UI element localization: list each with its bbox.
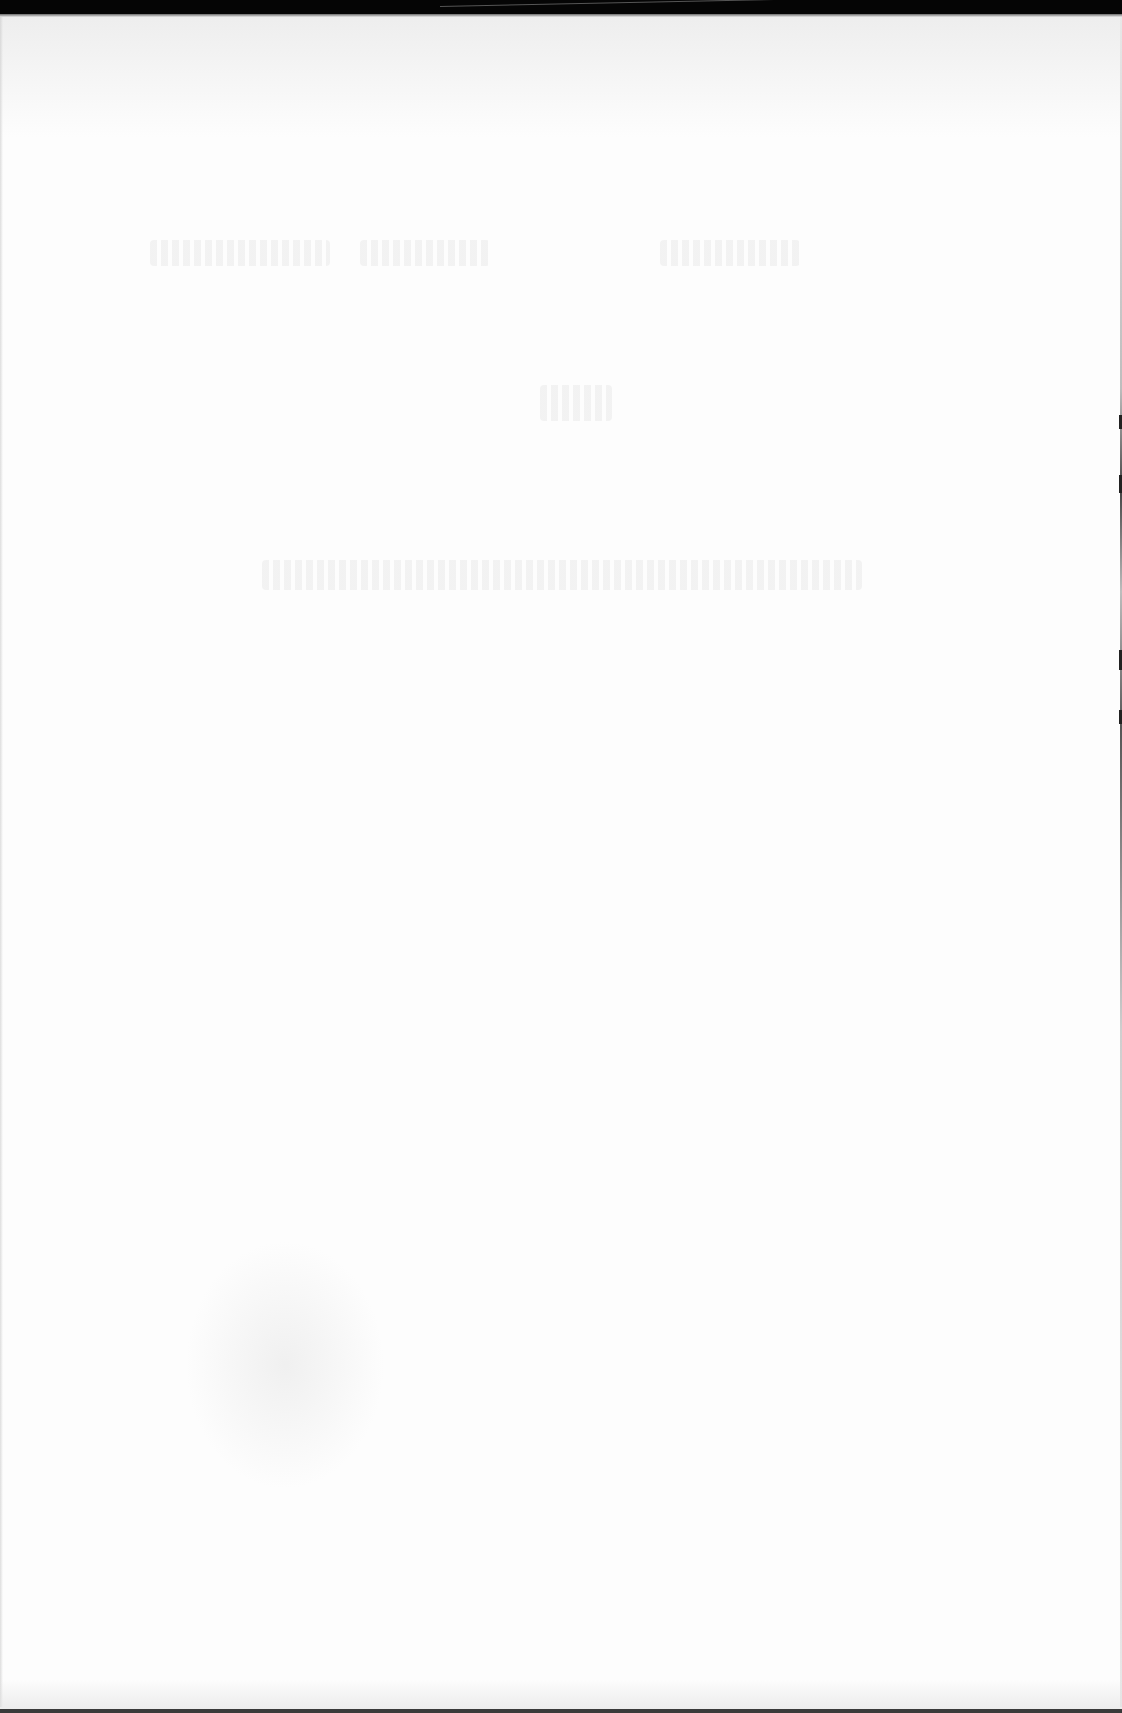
scan-left-edge [0,17,3,1707]
show-through-heading [540,385,612,421]
scan-bottom-shade [0,1679,1122,1709]
scan-bottom-border [0,1709,1122,1713]
show-through-text [150,240,330,266]
show-through-text [660,240,800,266]
show-through-title-line [262,560,862,590]
scan-top-border [0,0,1122,15]
show-through-text [360,240,490,266]
scan-stain [185,1240,385,1490]
scanned-page [0,0,1122,1713]
scan-top-border-edge [0,14,1122,17]
scan-top-shade [0,17,1122,137]
